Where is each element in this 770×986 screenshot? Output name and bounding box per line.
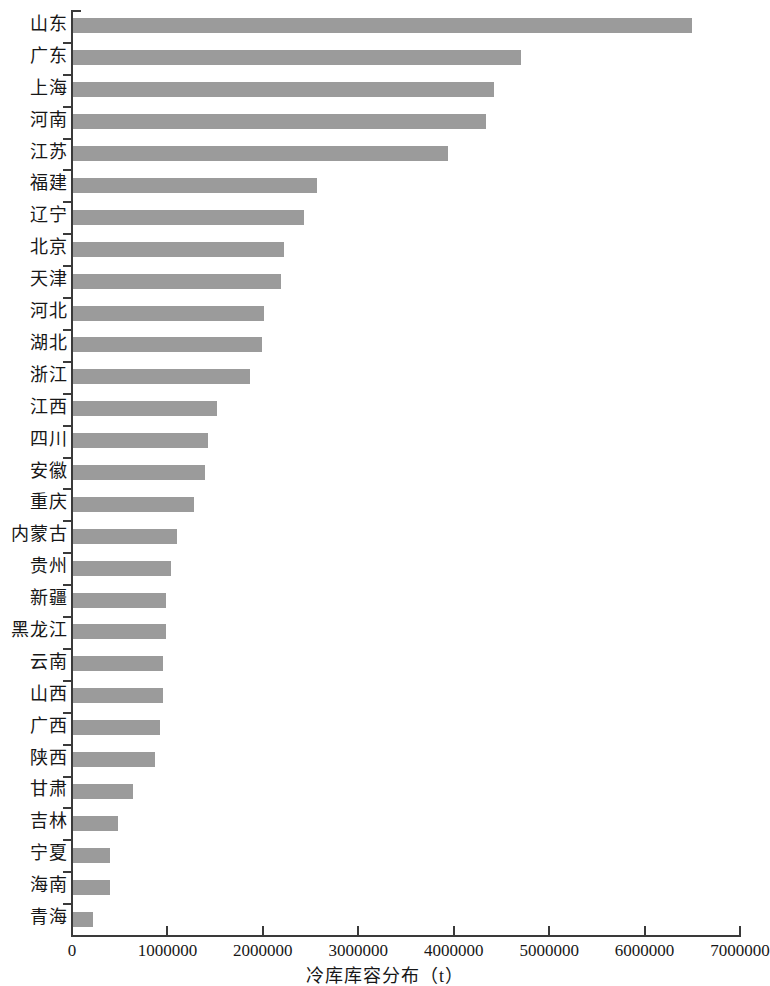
bar <box>72 752 155 767</box>
category-label: 河北 <box>0 302 68 321</box>
x-axis-line <box>71 935 741 937</box>
bar <box>72 146 448 161</box>
category-label: 广西 <box>0 717 68 736</box>
bar <box>72 369 250 384</box>
category-label: 上海 <box>0 79 68 98</box>
x-axis-tick <box>262 926 264 937</box>
category-label: 山西 <box>0 685 68 704</box>
bar <box>72 593 166 608</box>
bar <box>72 816 118 831</box>
x-axis-tick <box>357 926 359 937</box>
bar <box>72 624 166 639</box>
x-axis-tick <box>166 926 168 937</box>
category-label: 江西 <box>0 398 68 417</box>
bar <box>72 401 217 416</box>
bar <box>72 784 133 799</box>
y-axis-line <box>71 10 73 937</box>
category-label: 浙江 <box>0 366 68 385</box>
category-label: 新疆 <box>0 589 68 608</box>
bar <box>72 433 208 448</box>
category-label: 四川 <box>0 430 68 449</box>
bar <box>72 210 304 225</box>
bar <box>72 337 262 352</box>
bar <box>72 529 177 544</box>
bar <box>72 114 486 129</box>
category-label: 吉林 <box>0 812 68 831</box>
bar <box>72 274 281 289</box>
category-label: 湖北 <box>0 334 68 353</box>
category-label: 广东 <box>0 47 68 66</box>
x-axis-tick <box>548 926 550 937</box>
category-label: 贵州 <box>0 557 68 576</box>
bar <box>72 18 692 33</box>
x-axis-tick-label: 7000000 <box>680 941 770 961</box>
x-axis-tick <box>644 926 646 937</box>
category-label: 内蒙古 <box>0 525 68 544</box>
category-label: 重庆 <box>0 493 68 512</box>
category-label: 甘肃 <box>0 780 68 799</box>
bar <box>72 912 93 927</box>
y-axis-top-cap <box>72 10 81 12</box>
bar <box>72 720 160 735</box>
bar <box>72 497 194 512</box>
category-label: 青海 <box>0 908 68 927</box>
category-label: 山东 <box>0 15 68 34</box>
category-label: 河南 <box>0 111 68 130</box>
category-label: 天津 <box>0 270 68 289</box>
category-label: 北京 <box>0 238 68 257</box>
bar <box>72 242 284 257</box>
plot-area <box>72 10 740 935</box>
bar <box>72 50 521 65</box>
bar <box>72 656 163 671</box>
category-label: 黑龙江 <box>0 621 68 640</box>
bar <box>72 880 110 895</box>
category-label: 安徽 <box>0 462 68 481</box>
x-axis-tick <box>739 926 741 937</box>
bar <box>72 688 163 703</box>
category-label: 宁夏 <box>0 844 68 863</box>
category-label: 江苏 <box>0 143 68 162</box>
category-label: 福建 <box>0 174 68 193</box>
bar <box>72 178 317 193</box>
category-label: 海南 <box>0 876 68 895</box>
category-label: 云南 <box>0 653 68 672</box>
cold-storage-capacity-bar-chart: 山东广东上海河南江苏福建辽宁北京天津河北湖北浙江江西四川安徽重庆内蒙古贵州新疆黑… <box>0 0 770 986</box>
category-label: 辽宁 <box>0 206 68 225</box>
bar <box>72 848 110 863</box>
bar <box>72 82 494 97</box>
bar <box>72 561 171 576</box>
x-axis-title: 冷库库容分布（t） <box>0 961 770 986</box>
category-label: 陕西 <box>0 749 68 768</box>
bar <box>72 465 205 480</box>
bar <box>72 306 264 321</box>
x-axis-tick <box>453 926 455 937</box>
